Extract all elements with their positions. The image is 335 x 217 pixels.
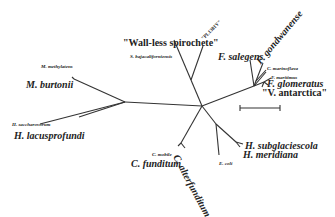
label-m-methylatens: M. methylatens <box>41 64 73 69</box>
phylogenetic-tree-figure: "Wall-less spirochete" "PL1381Y" S. baja… <box>0 0 335 217</box>
label-e-coli: E. coli <box>219 161 232 166</box>
label-m-burtonii: M. burtonii <box>26 80 73 90</box>
label-h-meridiana: H. meridiana <box>243 150 298 160</box>
label-c-marinoflava: C. marinoflava <box>267 66 298 71</box>
scale-bar <box>240 104 280 112</box>
label-h-lacusprofundi: H. lacusprofundi <box>14 131 85 141</box>
label-h-saccharovorum: H. saccharovorum <box>12 122 50 127</box>
label-s-bajacaliforniensis: S. bajacaliforniensis <box>130 54 172 59</box>
label-v-antarctica: "V. antarctica" <box>262 88 327 98</box>
label-c-mobile: C. mobile <box>152 152 172 157</box>
